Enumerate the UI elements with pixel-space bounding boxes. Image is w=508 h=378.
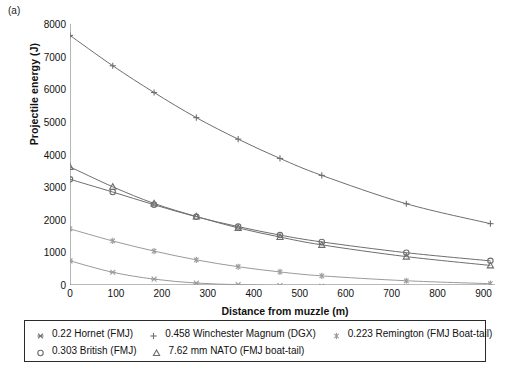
legend-marker-triangle (149, 347, 164, 359)
series-2 (70, 164, 494, 268)
plot-area (70, 24, 495, 285)
legend-marker (149, 345, 164, 357)
x-tick-label: 900 (475, 288, 492, 299)
legend-item[interactable]: 0.303 British (FMJ) (33, 345, 136, 357)
legend-marker (33, 345, 48, 357)
x-tick-label: 0 (67, 288, 73, 299)
y-tick-label: 3000 (44, 182, 66, 193)
plot-svg (70, 24, 495, 285)
legend-label: 7.62 mm NATO (FMJ boat-tail) (168, 345, 304, 356)
y-tick-label: 8000 (44, 19, 66, 30)
series-3 (70, 177, 493, 264)
legend-label: 0.458 Winchester Magnum (DGX) (165, 328, 316, 339)
legend-marker (329, 328, 344, 340)
y-axis-tick-labels: 010002000300040005000600070008000 (22, 24, 66, 285)
legend-item[interactable]: 7.62 mm NATO (FMJ boat-tail) (149, 345, 304, 357)
y-tick-label: 0 (60, 280, 66, 291)
series-1 (70, 32, 494, 226)
legend-marker-plus (146, 330, 161, 342)
legend-marker (146, 328, 161, 340)
panel-label: (a) (8, 5, 20, 16)
legend-marker-asterisk-x (33, 330, 48, 342)
x-tick-label: 400 (245, 288, 262, 299)
x-tick-label: 500 (291, 288, 308, 299)
x-tick-label: 200 (154, 288, 171, 299)
legend-marker (33, 328, 48, 340)
x-axis-tick-labels: 0100200300400500600700800900 (70, 288, 495, 302)
x-tick-label: 300 (199, 288, 216, 299)
x-tick-label: 800 (429, 288, 446, 299)
y-tick-label: 4000 (44, 149, 66, 160)
legend-label: 0.303 British (FMJ) (52, 345, 136, 356)
legend-marker-circle (33, 347, 48, 359)
x-tick-label: 700 (383, 288, 400, 299)
y-tick-label: 7000 (44, 51, 66, 62)
legend-item[interactable]: 0.223 Remington (FMJ Boat-tail) (329, 328, 493, 340)
legend-label: 0.223 Remington (FMJ Boat-tail) (348, 328, 493, 339)
marker-triangle (154, 349, 160, 355)
y-tick-label: 5000 (44, 116, 66, 127)
x-axis-title: Distance from muzzle (m) (70, 305, 500, 317)
legend-label: 0.22 Hornet (FMJ) (52, 328, 133, 339)
legend-item[interactable]: 0.22 Hornet (FMJ) (33, 328, 133, 340)
x-tick-label: 600 (337, 288, 354, 299)
legend-marker-star (329, 330, 344, 342)
series-line (70, 167, 490, 266)
y-tick-label: 2000 (44, 214, 66, 225)
x-tick-label: 100 (108, 288, 125, 299)
series-line (70, 179, 490, 261)
marker-circle (38, 350, 43, 355)
legend-item[interactable]: 0.458 Winchester Magnum (DGX) (146, 328, 316, 340)
y-tick-label: 1000 (44, 247, 66, 258)
y-tick-label: 6000 (44, 84, 66, 95)
chart-figure: (a) Projectile energy (J) Distance from … (0, 0, 508, 378)
legend: 0.22 Hornet (FMJ)0.458 Winchester Magnum… (24, 320, 486, 362)
legend-row: 0.22 Hornet (FMJ)0.458 Winchester Magnum… (33, 325, 479, 342)
legend-row: 0.303 British (FMJ)7.62 mm NATO (FMJ boa… (33, 342, 479, 359)
